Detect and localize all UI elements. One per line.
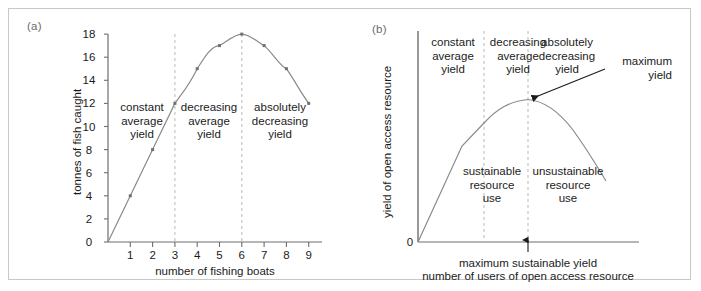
panel-b-zone-constant-average-yield: constant average yield — [423, 36, 483, 77]
panel-b-maximum-yield-label: maximum yield — [600, 54, 672, 82]
panel-a-x-axis-title: number of fishing boats — [140, 265, 290, 277]
panel-a-ytick-2: 2 — [78, 213, 100, 225]
panel-a-xtick-8: 8 — [275, 249, 297, 261]
panel-a-ytick-0: 0 — [78, 236, 100, 248]
panel-a-zone-absolutely-decreasing-yield: absolutely decreasing yield — [245, 101, 315, 142]
panel-b-origin-label: 0 — [399, 236, 421, 248]
panel-a-xtick-9: 9 — [298, 249, 320, 261]
panel-b-zone-sustainable-resource-use: sustainable resource use — [460, 165, 524, 206]
panel-a-ytick-16: 16 — [78, 51, 100, 63]
panel-a-xtick-2: 2 — [142, 249, 164, 261]
panel-a-xtick-4: 4 — [186, 249, 208, 261]
panel-b-zone-unsustainable-resource-use: unsustainable resource use — [530, 165, 606, 206]
figure-frame: (a) — [8, 8, 691, 280]
panel-a-ytick-18: 18 — [78, 28, 100, 40]
panel-a-xtick-6: 6 — [231, 249, 253, 261]
panel-a-zone-decreasing-average-yield: decreasing average yield — [177, 101, 241, 142]
panel-a: (a) — [9, 9, 357, 281]
panel-b-zone-absolutely-decreasing-yield: absolutely decreasing yield — [532, 36, 602, 77]
panel-a-zone-constant-average-yield: constant average yield — [112, 101, 172, 142]
panel-a-xtick-3: 3 — [164, 249, 186, 261]
panel-a-plot — [9, 9, 357, 281]
panel-a-xtick-7: 7 — [253, 249, 275, 261]
panel-a-xtick-5: 5 — [209, 249, 231, 261]
panel-a-xtick-1: 1 — [119, 249, 141, 261]
panel-a-x-ticks — [130, 242, 308, 247]
panel-b: (b) 0 — [357, 9, 692, 281]
panel-a-ytick-14: 14 — [78, 74, 100, 86]
panel-b-x-axis-title: number of users of open access resource — [398, 270, 658, 282]
panel-a-y-axis-title: tonnes of fish caught — [71, 89, 83, 195]
panel-b-msy-caption: maximum sustainable yield — [428, 257, 628, 269]
panel-b-y-axis-title: yield of open access resource — [381, 66, 393, 218]
